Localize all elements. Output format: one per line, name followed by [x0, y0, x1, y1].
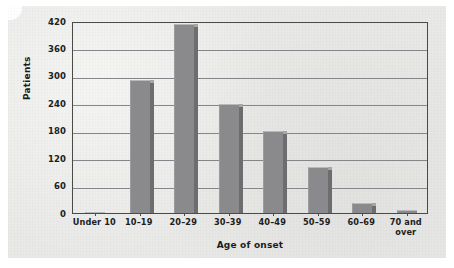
bar-shadow: [372, 206, 376, 213]
bar: [308, 167, 328, 213]
y-axis-title: Patients: [22, 56, 32, 100]
bar: [263, 131, 283, 213]
bar-shadow: [194, 27, 198, 213]
bar-top-face: [194, 24, 198, 27]
bar-group: [219, 23, 239, 213]
x-tick-mark: [229, 213, 230, 216]
bar-top-face: [283, 131, 287, 134]
bar-top-face: [150, 80, 154, 83]
bar: [219, 104, 239, 213]
x-tick-label: 20–29: [161, 218, 206, 228]
plot-area: [72, 22, 428, 214]
bar-top-face: [372, 203, 376, 206]
x-tick-label: 60–69: [339, 218, 384, 228]
x-tick-label: 50–59: [295, 218, 340, 228]
gridline: [73, 188, 427, 189]
bar-shadow: [150, 83, 154, 213]
bar-shadow: [283, 134, 287, 213]
x-tick-mark: [140, 213, 141, 216]
bar: [352, 203, 372, 213]
gridline: [73, 133, 427, 134]
bar: [174, 24, 194, 213]
bar-shadow: [239, 107, 243, 213]
bar: [130, 80, 150, 213]
bar-group: [85, 23, 105, 213]
figure-container: 060120180240300360420 Under 1010–1920–29…: [0, 0, 454, 268]
bar-group: [397, 23, 417, 213]
page-corner-notch: [8, 6, 22, 20]
bar-group: [263, 23, 283, 213]
bar-group: [352, 23, 372, 213]
x-tick-mark: [407, 213, 408, 216]
x-tick-label: 10–19: [117, 218, 162, 228]
gridline: [73, 78, 427, 79]
x-tick-label: Under 10: [72, 218, 117, 228]
x-tick-mark: [184, 213, 185, 216]
bar-top-face: [239, 104, 243, 107]
x-axis-title: Age of onset: [72, 240, 428, 250]
x-tick-label: 40–49: [250, 218, 295, 228]
x-tick-mark: [362, 213, 363, 216]
x-tick-mark: [273, 213, 274, 216]
bar-group: [130, 23, 150, 213]
x-tick-mark: [95, 213, 96, 216]
bar-shadow: [328, 170, 332, 213]
x-tick-label: 70 and over: [384, 218, 429, 237]
x-tick-label: 30–39: [206, 218, 251, 228]
gridline: [73, 160, 427, 161]
gridline: [73, 105, 427, 106]
bar-group: [308, 23, 328, 213]
bar-top-face: [328, 167, 332, 170]
gridline: [73, 50, 427, 51]
bar-group: [174, 23, 194, 213]
x-tick-mark: [318, 213, 319, 216]
